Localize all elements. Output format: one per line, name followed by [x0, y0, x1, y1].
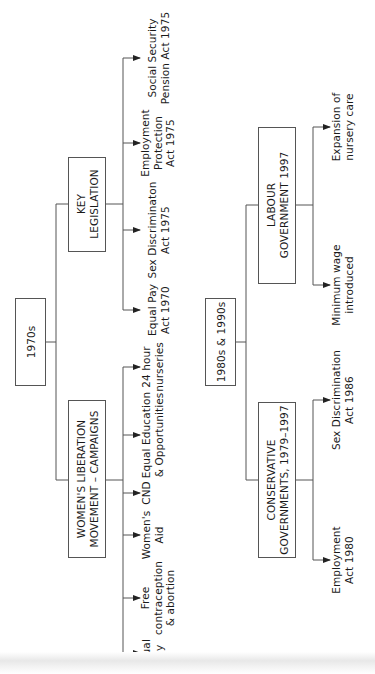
node-labour-government-label: LABOUR GOVERNMENT 1997: [265, 152, 290, 259]
leaf-employment-act-1980: Employment Act 1980: [330, 526, 355, 594]
leaf-expansion-of-nursery-care: Expansion of nursery care: [330, 93, 355, 162]
page-edge-shadow: [0, 652, 375, 674]
node-1980s-1990s-label: 1980s & 1990s: [215, 302, 228, 383]
leaf-24-hour-nurseries: 24 hour nurseries: [140, 342, 165, 392]
leaf-sex-discrimination-act-1986: Sex Discrimination Act 1986: [330, 350, 355, 450]
node-womens-liberation-label: WOMEN'S LIBERATION MOVEMENT – CAMPAIGNS: [75, 410, 100, 547]
leaf-womens-aid: Women's Aid: [140, 511, 165, 560]
node-1970s-label: 1970s: [25, 326, 38, 359]
leaf-equal-pay-act-1970: Equal Pay Act 1970: [146, 284, 171, 336]
leaf-cnd: CND: [140, 481, 153, 505]
leaf-employment-protection-act-1975: Employment Protection Act 1975: [139, 109, 177, 177]
diagram-connectors: [0, 0, 375, 674]
leaf-sex-discrimination-act-1975: Sex Discriminaton Act 1975: [146, 181, 171, 278]
leaf-minimum-wage-introduced: Minimum wage introduced: [330, 244, 355, 325]
leaf-free-contraception-abortion: Free contraception & abortion: [139, 561, 177, 635]
node-key-legislation-label: KEY LEGISLATION: [75, 169, 100, 239]
node-conservative-governments-label: CONSERVATIVE GOVERNMENTS, 1979–1997: [265, 405, 290, 554]
leaf-equal-education-opportunities: Equal Education & Opportunities: [140, 392, 165, 478]
leaf-social-security-pension-act-1975: Social Security Pension Act 1975: [146, 12, 171, 104]
